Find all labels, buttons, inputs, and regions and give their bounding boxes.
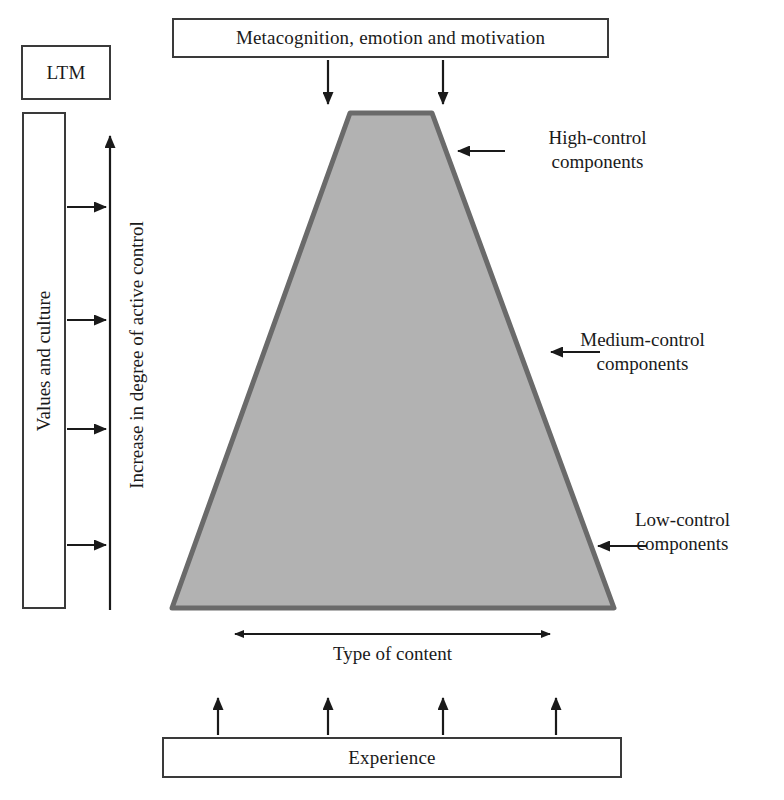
values-and-culture-box: Values and culture <box>22 112 66 609</box>
high-control-line-1: High-control <box>510 126 685 150</box>
medium-control-line-2: components <box>545 352 740 376</box>
low-control-line-2: components <box>595 532 770 556</box>
high-control-line-2: components <box>510 150 685 174</box>
metacognition-box: Metacognition, emotion and motivation <box>172 18 609 58</box>
diagram-vector-layer <box>0 0 784 800</box>
experience-box-label: Experience <box>348 747 435 769</box>
medium-control-line-1: Medium-control <box>545 328 740 352</box>
values-and-culture-box-label: Values and culture <box>33 290 55 430</box>
low-control-line-1: Low-control <box>595 508 770 532</box>
active-control-axis-label: Increase in degree of active control <box>126 145 148 565</box>
high-control-components-label: High-control components <box>510 126 685 174</box>
type-of-content-label: Type of content <box>232 643 553 665</box>
medium-control-components-label: Medium-control components <box>545 328 740 376</box>
low-control-components-label: Low-control components <box>595 508 770 556</box>
experience-box: Experience <box>162 737 622 778</box>
ltm-box-label: LTM <box>47 62 86 84</box>
metacognition-box-label: Metacognition, emotion and motivation <box>236 27 545 49</box>
diagram-canvas: Metacognition, emotion and motivation LT… <box>0 0 784 800</box>
ltm-box: LTM <box>21 45 111 100</box>
